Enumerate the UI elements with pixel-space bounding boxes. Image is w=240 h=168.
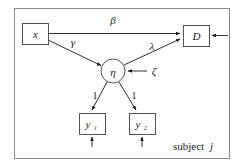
diagram-canvas: x D η y 1 y 2 β γ λ 1 1 ζ subject j bbox=[0, 0, 240, 168]
node-y1-box[interactable] bbox=[80, 114, 106, 135]
node-y2-base: y bbox=[135, 118, 141, 130]
node-D-label: D bbox=[192, 30, 201, 42]
edge-label-lambda: λ bbox=[149, 40, 155, 52]
node-y2-box[interactable] bbox=[130, 114, 156, 135]
edge-label-loading-y1: 1 bbox=[93, 90, 98, 101]
node-y2-label: y bbox=[135, 118, 141, 130]
node-y1-base: y bbox=[85, 118, 91, 130]
node-x-label: x bbox=[32, 28, 38, 40]
node-y1-label: y bbox=[85, 118, 91, 130]
edge-label-loading-y2: 1 bbox=[132, 90, 137, 101]
subject-plate-label-prefix: subject bbox=[173, 140, 204, 152]
edge-label-gamma: γ bbox=[71, 36, 76, 48]
path-diagram-svg: x D η y 1 y 2 β γ λ 1 1 ζ subject j bbox=[0, 0, 240, 168]
node-y2-subscript: 2 bbox=[144, 125, 147, 131]
node-y1-subscript: 1 bbox=[94, 125, 97, 131]
edge-label-beta: β bbox=[109, 14, 116, 26]
node-eta-label: η bbox=[110, 66, 115, 78]
